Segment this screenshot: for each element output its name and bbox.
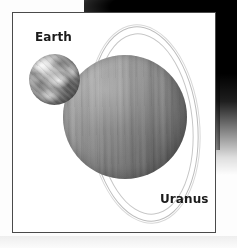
earth-label: Earth	[35, 31, 72, 43]
uranus-label: Uranus	[160, 193, 209, 205]
uranus-planet-sphere	[63, 55, 187, 179]
scan-shadow-right-icon	[214, 0, 237, 175]
earth-planet-sphere	[29, 54, 80, 105]
illustration-border: Earth Uranus	[12, 12, 216, 233]
illustration-figure: Earth Uranus	[0, 0, 237, 248]
uranus-limb-shading-icon	[63, 55, 187, 179]
scan-wash-bottom-icon	[0, 236, 237, 248]
earth-limb-shading-icon	[29, 54, 80, 105]
